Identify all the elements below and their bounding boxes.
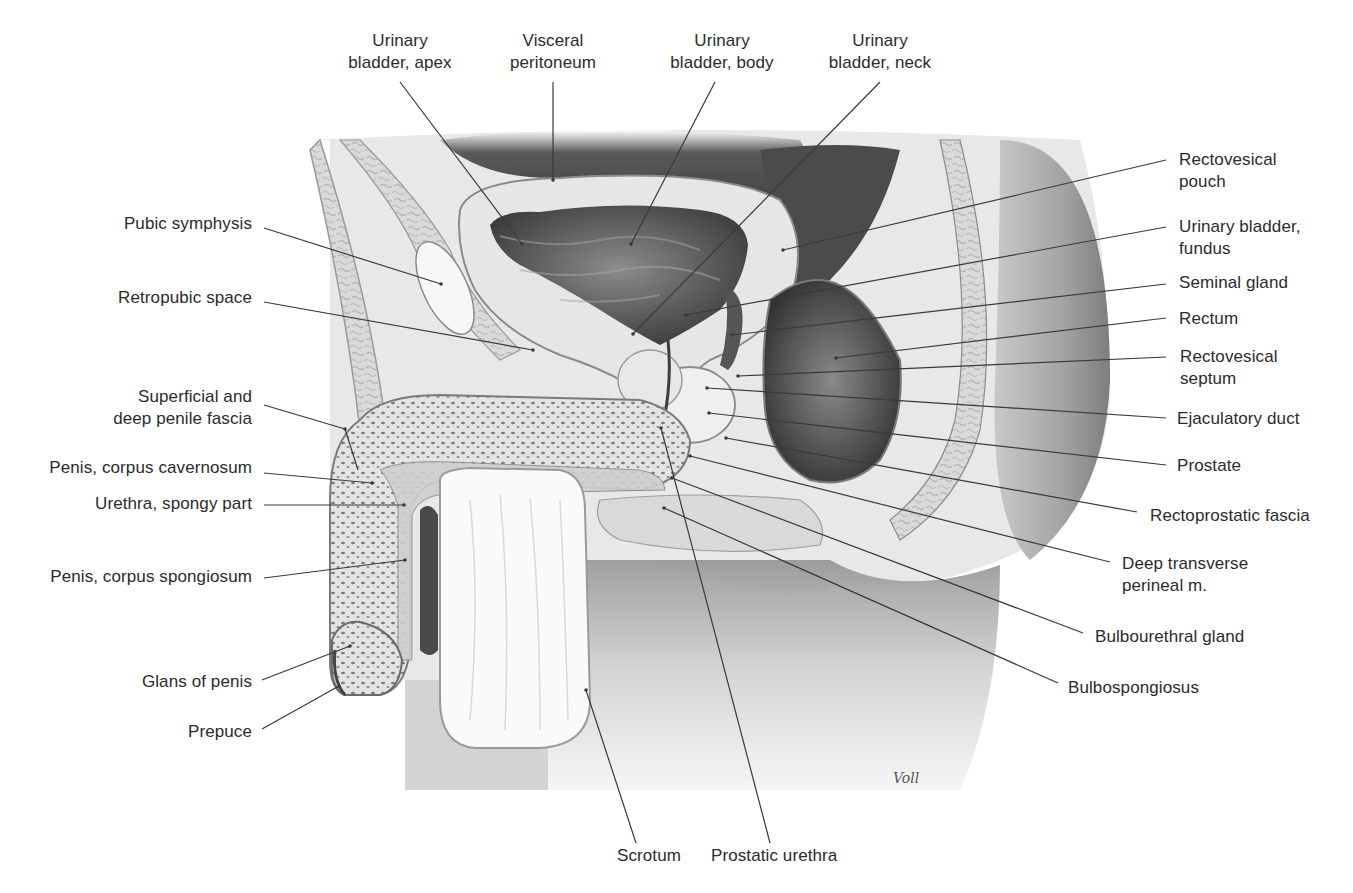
- label-prostatic-urethra: Prostatic urethra: [711, 845, 881, 867]
- label-line-1: Deep transverse: [1122, 553, 1292, 575]
- leader-dot-urinary-bladder-apex: [520, 242, 524, 246]
- label-pubic-symphysis: Pubic symphysis: [20, 213, 252, 235]
- artist-signature: Voll: [893, 770, 919, 786]
- label-line-2: bladder, apex: [340, 52, 460, 74]
- label-rectovesical-septum: Rectovesical septum: [1180, 346, 1350, 390]
- label-ejaculatory-duct: Ejaculatory duct: [1177, 408, 1347, 430]
- leader-dot-scrotum: [584, 688, 588, 692]
- leader-dot-rectovesical-septum: [736, 374, 740, 378]
- leader-dot-deep-transverse-perineal-m: [688, 454, 692, 458]
- label-visceral-peritoneum: Visceral peritoneum: [493, 30, 613, 74]
- male-pelvis-sagittal-illustration: [0, 0, 1353, 893]
- label-urinary-bladder-neck: Urinary bladder, neck: [815, 30, 945, 74]
- label-line-1: Rectovesical: [1179, 149, 1349, 171]
- label-line-1: Bulbospongiosus: [1068, 677, 1268, 699]
- leader-dot-retropubic-space: [531, 348, 535, 352]
- label-line-1: Urinary: [340, 30, 460, 52]
- label-line-1: Rectovesical: [1180, 346, 1350, 368]
- leader-dot-rectovesical-pouch: [781, 248, 785, 252]
- label-penis-corpus-spongiosum: Penis, corpus spongiosum: [0, 566, 252, 588]
- leader-dot-prostate: [707, 411, 711, 415]
- leader-dot-bulbospongiosus: [662, 506, 666, 510]
- label-line-1: Seminal gland: [1179, 272, 1349, 294]
- label-line-2: pouch: [1179, 171, 1349, 193]
- label-rectoprostatic-fascia: Rectoprostatic fascia: [1150, 505, 1350, 527]
- label-superficial-deep-penile-fascia: Superficial and deep penile fascia: [20, 386, 252, 430]
- label-line-1: Retropubic space: [20, 287, 252, 309]
- label-line-1: Visceral: [493, 30, 613, 52]
- label-line-2: bladder, neck: [815, 52, 945, 74]
- leader-dot-penis-corpus-cavernosum: [370, 481, 374, 485]
- label-line-1: Pubic symphysis: [20, 213, 252, 235]
- label-urinary-bladder-apex: Urinary bladder, apex: [340, 30, 460, 74]
- label-line-2: septum: [1180, 368, 1350, 390]
- label-rectovesical-pouch: Rectovesical pouch: [1179, 149, 1349, 193]
- label-urethra-spongy-part: Urethra, spongy part: [0, 493, 252, 515]
- leader-dot-urinary-bladder-fundus: [684, 313, 688, 317]
- label-line-2: deep penile fascia: [20, 408, 252, 430]
- label-line-1: Penis, corpus spongiosum: [0, 566, 252, 588]
- label-line-2: bladder, body: [662, 52, 782, 74]
- label-line-1: Superficial and: [20, 386, 252, 408]
- label-deep-transverse-perineal-m: Deep transverse perineal m.: [1122, 553, 1292, 597]
- leader-dot-urethra-spongy-part: [402, 503, 406, 507]
- label-urinary-bladder-body: Urinary bladder, body: [662, 30, 782, 74]
- label-penis-corpus-cavernosum: Penis, corpus cavernosum: [0, 457, 252, 479]
- label-glans-of-penis: Glans of penis: [0, 671, 252, 693]
- label-scrotum: Scrotum: [604, 845, 694, 867]
- leader-dot-penis-corpus-spongiosum: [403, 558, 407, 562]
- label-line-1: Glans of penis: [0, 671, 252, 693]
- label-line-1: Ejaculatory duct: [1177, 408, 1347, 430]
- leader-dot-seminal-gland: [730, 333, 734, 337]
- label-seminal-gland: Seminal gland: [1179, 272, 1349, 294]
- thigh-shadow: [548, 560, 1000, 790]
- label-line-1: Prepuce: [0, 721, 252, 743]
- leader-dot-pubic-symphysis: [439, 282, 443, 286]
- label-prepuce: Prepuce: [0, 721, 252, 743]
- label-line-1: Prostate: [1177, 455, 1347, 477]
- leader-line-prepuce: [262, 686, 339, 729]
- label-line-1: Bulbourethral gland: [1095, 626, 1295, 648]
- label-line-1: Urethra, spongy part: [0, 493, 252, 515]
- label-line-2: perineal m.: [1122, 575, 1292, 597]
- leader-dot-urinary-bladder-neck: [631, 332, 635, 336]
- label-line-1: Urinary bladder,: [1179, 216, 1349, 238]
- label-retropubic-space: Retropubic space: [20, 287, 252, 309]
- leader-dot-ejaculatory-duct: [705, 386, 709, 390]
- leader-dot-glans-of-penis: [348, 644, 352, 648]
- label-line-1: Penis, corpus cavernosum: [0, 457, 252, 479]
- label-prostate: Prostate: [1177, 455, 1347, 477]
- label-line-1: Urinary: [662, 30, 782, 52]
- label-line-1: Rectoprostatic fascia: [1150, 505, 1350, 527]
- label-line-2: fundus: [1179, 238, 1349, 260]
- label-line-2: peritoneum: [493, 52, 613, 74]
- leader-dot-rectum: [834, 356, 838, 360]
- label-bulbospongiosus: Bulbospongiosus: [1068, 677, 1268, 699]
- leader-dot-prostatic-urethra: [659, 426, 663, 430]
- penoscrotal-gap: [420, 506, 438, 655]
- label-rectum: Rectum: [1179, 308, 1349, 330]
- leader-dot-visceral-peritoneum: [551, 178, 555, 182]
- leader-dot-prepuce: [337, 684, 341, 688]
- label-line-1: Urinary: [815, 30, 945, 52]
- label-line-1: Scrotum: [604, 845, 694, 867]
- label-line-1: Prostatic urethra: [711, 845, 881, 867]
- label-line-1: Rectum: [1179, 308, 1349, 330]
- anatomy-figure: Urinary bladder, apex Visceral peritoneu…: [0, 0, 1353, 893]
- leader-dot-rectoprostatic-fascia: [724, 436, 728, 440]
- leader-dot-urinary-bladder-body: [629, 242, 633, 246]
- label-bulbourethral-gland: Bulbourethral gland: [1095, 626, 1295, 648]
- label-urinary-bladder-fundus: Urinary bladder, fundus: [1179, 216, 1349, 260]
